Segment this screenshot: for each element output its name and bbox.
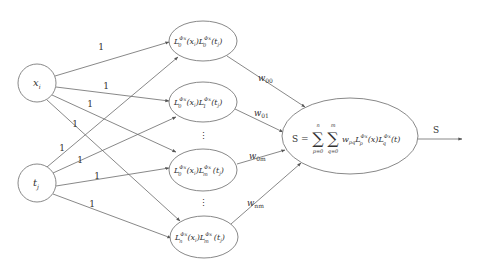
vertical-ellipsis: ⋮ xyxy=(199,198,208,208)
weight-label-00: w00 xyxy=(258,73,273,84)
nodes-layer: xitjLΦx0(xi)LΦx0(tj)LΦx0(xi)LΦx1(tj)LΦx0… xyxy=(18,21,418,258)
neural-network-diagram: xitjLΦx0(xi)LΦx0(tj)LΦx0(xi)LΦx1(tj)LΦx0… xyxy=(0,0,484,270)
svg-text:p=0: p=0 xyxy=(313,148,324,155)
weight-edge-nm xyxy=(231,163,301,224)
sigma-1: ∑ xyxy=(312,129,324,148)
edge-weight-label: 1 xyxy=(98,42,104,52)
input-edge xyxy=(56,87,169,101)
svg-text:q=0: q=0 xyxy=(328,148,339,155)
edge-weight-label: 1 xyxy=(103,81,109,91)
input-edge xyxy=(53,194,171,238)
input-edge xyxy=(47,57,178,167)
weight-label-01: w01 xyxy=(254,108,269,119)
vertical-ellipsis: ⋮ xyxy=(199,131,208,141)
input-edge xyxy=(52,95,176,152)
svg-text:m: m xyxy=(331,122,336,128)
edge-weight-label: 1 xyxy=(89,199,95,209)
svg-text:n: n xyxy=(316,122,319,128)
edge-weight-label: 1 xyxy=(72,119,78,129)
edge-weight-label: 1 xyxy=(94,171,100,181)
edge-weight-label: 1 xyxy=(77,155,83,165)
weight-label-nm: wnm xyxy=(247,198,264,209)
formula-lhs: S = xyxy=(292,134,309,144)
input-edge xyxy=(55,42,169,76)
edge-weight-label: 1 xyxy=(59,143,65,153)
sigma-2: ∑ xyxy=(327,129,339,148)
output-label: S xyxy=(433,125,439,135)
weight-label-0m: w0m xyxy=(249,151,266,162)
input-edge xyxy=(47,100,180,221)
input-edge xyxy=(56,168,169,186)
edge-weight-label: 1 xyxy=(87,99,93,109)
